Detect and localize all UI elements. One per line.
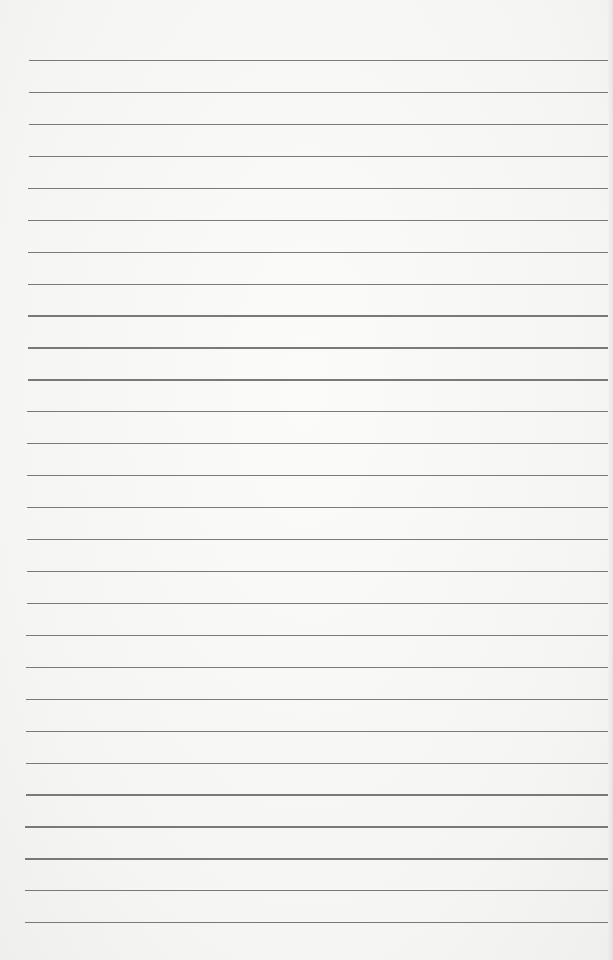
ruled-line bbox=[27, 507, 608, 508]
ruled-line bbox=[26, 699, 608, 700]
ruled-line bbox=[28, 252, 608, 253]
paper-edge-shadow bbox=[607, 0, 613, 960]
ruled-line bbox=[26, 731, 608, 732]
ruled-line bbox=[28, 188, 608, 189]
ruled-line bbox=[25, 922, 608, 923]
ruled-line bbox=[28, 315, 608, 316]
ruled-line bbox=[29, 156, 608, 157]
lined-paper-sheet bbox=[0, 0, 613, 960]
ruled-line bbox=[29, 60, 608, 61]
ruled-line bbox=[27, 571, 608, 572]
ruled-line bbox=[27, 411, 608, 412]
ruled-line bbox=[26, 794, 608, 795]
ruled-line bbox=[27, 603, 609, 604]
ruled-line bbox=[27, 539, 608, 540]
ruled-line bbox=[25, 858, 608, 859]
ruled-line bbox=[27, 475, 608, 476]
ruled-line bbox=[29, 124, 608, 125]
ruled-line bbox=[26, 667, 608, 668]
ruled-line bbox=[26, 763, 608, 764]
ruled-line bbox=[25, 826, 608, 827]
ruled-line bbox=[28, 379, 609, 380]
ruled-line bbox=[29, 92, 608, 93]
ruled-line bbox=[28, 347, 608, 348]
ruled-line bbox=[28, 284, 608, 285]
ruled-line bbox=[27, 443, 608, 444]
ruled-line bbox=[26, 635, 608, 636]
ruled-line bbox=[28, 220, 608, 221]
ruled-line bbox=[25, 890, 608, 891]
